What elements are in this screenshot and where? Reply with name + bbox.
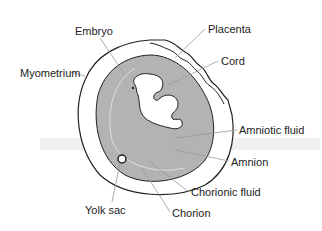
label-chorionic-fluid: Chorionic fluid <box>191 187 261 198</box>
label-yolk-sac: Yolk sac <box>85 205 126 216</box>
label-myometrium: Myometrium <box>20 68 81 79</box>
label-chorion: Chorion <box>172 208 211 219</box>
pregnancy-diagram <box>0 0 322 231</box>
label-placenta: Placenta <box>208 24 251 35</box>
label-amniotic-fluid: Amniotic fluid <box>239 125 304 136</box>
embryo-eye <box>132 87 134 89</box>
label-cord: Cord <box>221 56 245 67</box>
label-amnion: Amnion <box>231 157 268 168</box>
label-embryo: Embryo <box>75 26 113 37</box>
yolk-sac-shape <box>118 155 126 163</box>
